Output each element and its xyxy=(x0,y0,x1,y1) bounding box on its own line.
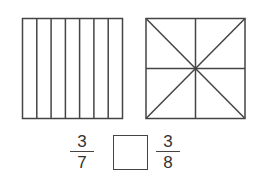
comparison-answer-box[interactable] xyxy=(113,135,148,170)
right-square-eight-triangles xyxy=(146,19,245,119)
left-fraction-denominator: 7 xyxy=(70,154,94,171)
left-fraction-numerator: 3 xyxy=(70,133,94,150)
left-square-seven-strips xyxy=(23,19,123,119)
right-fraction: 3 8 xyxy=(156,133,180,171)
fraction-bar xyxy=(156,151,180,152)
fraction-bar xyxy=(70,151,94,152)
right-fraction-numerator: 3 xyxy=(156,133,180,150)
left-fraction: 3 7 xyxy=(70,133,94,171)
right-fraction-denominator: 8 xyxy=(156,154,180,171)
